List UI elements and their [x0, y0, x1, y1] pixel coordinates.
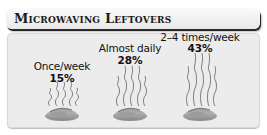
steam-icon	[182, 53, 218, 106]
percentage-value: 28%	[117, 54, 142, 66]
bowl-icon	[42, 102, 82, 122]
bowl-icon	[180, 102, 220, 122]
chart-title-bar: Microwaving Leftovers	[6, 8, 260, 29]
steam-icon	[112, 66, 148, 106]
category-label: Almost daily	[99, 42, 161, 54]
chart-title: Microwaving Leftovers	[14, 11, 171, 26]
category-label: Once/week	[34, 60, 90, 72]
bowl-icon	[110, 102, 150, 122]
